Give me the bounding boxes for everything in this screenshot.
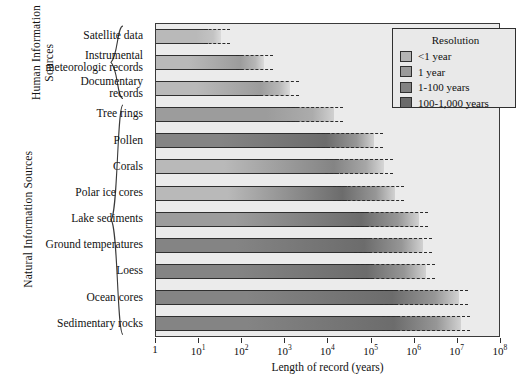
- figure-root: Human InformationSourcesNatural Informat…: [0, 0, 528, 388]
- bar-top-rule: [156, 238, 370, 239]
- bar-uncertain-bottom: [356, 278, 435, 279]
- bar-bottom-rule: [156, 69, 242, 70]
- category-label-polar-ice-cores: Polar ice cores: [0, 186, 150, 199]
- x-tick-label: 102: [234, 343, 249, 357]
- category-label-documentary-records: Documentaryrecords: [0, 75, 150, 100]
- bar-ground-temperatures: [156, 238, 423, 253]
- x-tick-exponent: 2: [245, 343, 249, 352]
- bar-uncertain-top: [204, 29, 230, 30]
- bar-top-rule: [156, 264, 372, 265]
- category-label-sedimentary-rocks: Sedimentary rocks: [0, 317, 150, 330]
- bar-bottom-rule: [156, 43, 208, 44]
- bar-top-rule: [156, 186, 347, 187]
- category-label-line: Satellite data: [0, 29, 143, 42]
- bar-corals: [156, 159, 384, 174]
- bar-uncertain-top: [236, 55, 273, 56]
- category-label-line: Ground temperatures: [0, 238, 143, 251]
- bar-top-rule: [156, 55, 242, 56]
- legend-swatch: [400, 66, 412, 77]
- x-tick-exponent: 1: [202, 343, 206, 352]
- bar-top-rule: [156, 212, 367, 213]
- bar-tree-rings: [156, 107, 334, 122]
- bar-uncertain-bottom: [204, 43, 230, 44]
- category-label-lake-sediments: Lake sediments: [0, 212, 150, 225]
- category-label-line: Pollen: [0, 134, 143, 147]
- category-label-line: Documentary: [0, 75, 143, 88]
- bar-uncertain-bottom: [317, 147, 383, 148]
- category-label-corals: Corals: [0, 160, 150, 173]
- category-label-line: Tree rings: [0, 107, 143, 120]
- bar-uncertain-bottom: [325, 173, 393, 174]
- legend-swatch: [400, 97, 412, 108]
- bar-fill: [156, 264, 426, 279]
- bar-fill: [156, 159, 384, 174]
- bar-lake-sediments: [156, 212, 419, 227]
- x-tick-label: 104: [320, 343, 335, 357]
- legend-entry: 100-1,000 years: [400, 96, 509, 111]
- category-label-loess: Loess: [0, 264, 150, 277]
- bar-uncertain-top: [356, 264, 435, 265]
- bar-instrumental-meteorologic-records: [156, 55, 264, 70]
- x-tick-label: 1: [152, 343, 158, 355]
- legend-label: 1-100 years: [418, 81, 470, 93]
- bar-uncertain-top: [333, 186, 404, 187]
- legend-label: <1 year: [418, 50, 451, 62]
- category-label-ground-temperatures: Ground temperatures: [0, 238, 150, 251]
- bar-polar-ice-cores: [156, 186, 395, 201]
- bar-uncertain-top: [317, 133, 383, 134]
- x-tick-exponent: 7: [460, 343, 464, 352]
- category-label-line: Polar ice cores: [0, 186, 143, 199]
- legend-swatch: [400, 82, 412, 93]
- category-label-line: Sedimentary rocks: [0, 317, 143, 330]
- bar-uncertain-top: [255, 81, 299, 82]
- x-tick-exponent: 4: [331, 343, 335, 352]
- bar-uncertain-bottom: [354, 252, 433, 253]
- bar-top-rule: [156, 107, 298, 108]
- bar-fill: [156, 55, 264, 70]
- category-label-tree-rings: Tree rings: [0, 107, 150, 120]
- bar-uncertain-top: [380, 290, 468, 291]
- legend-entry: <1 year: [400, 49, 509, 64]
- x-tick-exponent: 5: [374, 343, 378, 352]
- category-label-line: meteorologic records: [0, 61, 143, 74]
- bar-bottom-rule: [156, 252, 370, 253]
- bar-sedimentary-rocks: [156, 316, 461, 331]
- bar-bottom-rule: [156, 147, 330, 148]
- bar-fill: [156, 107, 334, 122]
- bar-uncertain-bottom: [382, 330, 470, 331]
- bar-uncertain-top: [382, 316, 470, 317]
- bar-bottom-rule: [156, 173, 339, 174]
- legend-label: 100-1,000 years: [418, 97, 489, 109]
- legend-swatch: [400, 51, 412, 62]
- bar-uncertain-bottom: [287, 121, 342, 122]
- bar-uncertain-bottom: [380, 304, 468, 305]
- bar-bottom-rule: [156, 121, 298, 122]
- bar-uncertain-top: [354, 238, 433, 239]
- bar-uncertain-top: [287, 107, 342, 108]
- category-label-instrumental-meteorologic-records: Instrumentalmeteorologic records: [0, 49, 150, 74]
- bar-bottom-rule: [156, 278, 372, 279]
- x-tick-label: 106: [406, 343, 421, 357]
- bar-top-rule: [156, 81, 263, 82]
- bar-fill: [156, 133, 374, 148]
- category-label-ocean-cores: Ocean cores: [0, 291, 150, 304]
- bar-top-rule: [156, 133, 330, 134]
- category-label-line: Lake sediments: [0, 212, 143, 225]
- bar-fill: [156, 238, 423, 253]
- x-tick-exponent: 3: [288, 343, 292, 352]
- bar-uncertain-top: [325, 159, 393, 160]
- category-label-line: Instrumental: [0, 49, 143, 62]
- bar-fill: [156, 81, 290, 96]
- x-tick-label: 108: [492, 343, 507, 357]
- bar-bottom-rule: [156, 200, 347, 201]
- bar-uncertain-bottom: [236, 69, 273, 70]
- x-tick-label: 103: [277, 343, 292, 357]
- category-label-layer: Satellite dataInstrumentalmeteorologic r…: [0, 0, 150, 388]
- bar-bottom-rule: [156, 330, 400, 331]
- bar-top-rule: [156, 29, 208, 30]
- legend-rows: <1 year1 year1-100 years100-1,000 years: [400, 49, 509, 110]
- bar-bottom-rule: [156, 226, 367, 227]
- bar-fill: [156, 29, 221, 44]
- category-label-line: Ocean cores: [0, 291, 143, 304]
- legend-entry: 1 year: [400, 65, 509, 80]
